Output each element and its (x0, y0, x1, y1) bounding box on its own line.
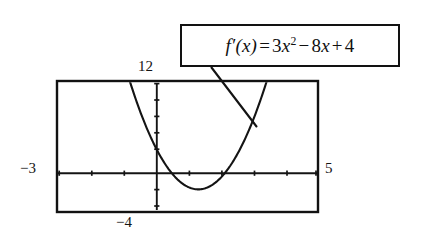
equals-sign: = (257, 35, 272, 56)
window-ymin-label: −4 (116, 215, 132, 230)
window-xmax-label: 5 (325, 161, 333, 176)
calculator-screen-frame (57, 81, 318, 212)
window-ymax-label: 12 (138, 59, 153, 74)
exponent-two: 2 (290, 34, 296, 47)
minus-sign: − (297, 35, 312, 56)
function-argument: (x) (235, 35, 257, 56)
function-name: f′ (226, 35, 236, 56)
formula-text: f′(x)=3x2−8x+4 (226, 35, 355, 57)
plus-sign: + (330, 35, 345, 56)
formula-callout-box: f′(x)=3x2−8x+4 (180, 24, 400, 67)
window-xmin-label: −3 (20, 161, 36, 176)
linear-variable: x (321, 35, 330, 56)
